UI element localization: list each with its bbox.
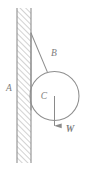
label-wall-a: A	[5, 83, 12, 93]
wall-hatching	[17, 8, 31, 163]
label-weight-w: W	[66, 124, 75, 134]
label-center-c: C	[41, 91, 48, 101]
wall-support	[17, 8, 31, 163]
free-body-diagram-svg: A B C W	[0, 0, 89, 173]
label-string-b: B	[51, 48, 57, 58]
diagram-background	[0, 0, 89, 173]
physics-diagram-canvas: A B C W	[0, 0, 89, 173]
